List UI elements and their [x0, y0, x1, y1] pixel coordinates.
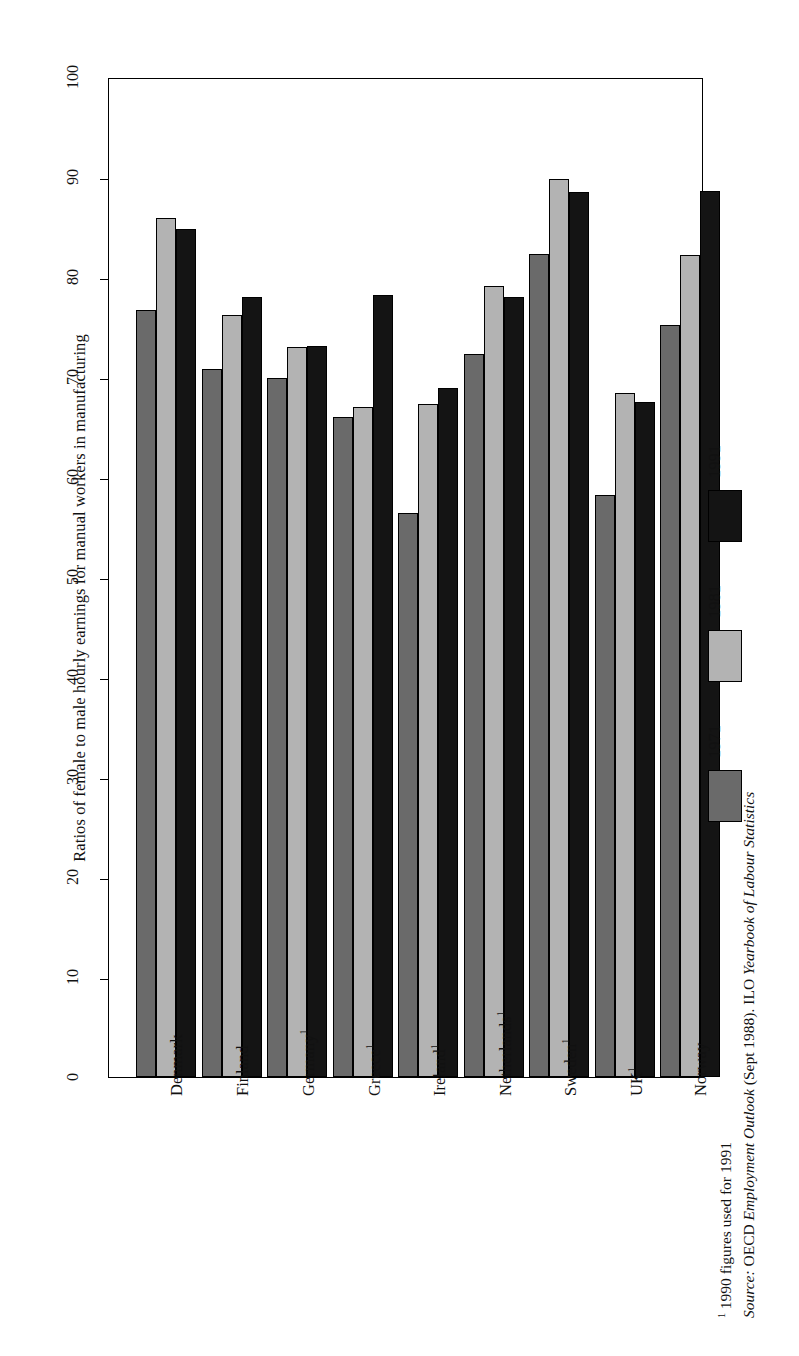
- bar-Denmark-1971: [136, 310, 156, 1077]
- y-tick-label-20: 20: [64, 854, 82, 900]
- bar-Sweden-1991: [569, 192, 589, 1077]
- bar-Netherlands-1991: [504, 297, 524, 1077]
- source-italic-1: Employment Outlook: [740, 1089, 757, 1220]
- y-tick-label-40: 40: [64, 654, 82, 700]
- bar-Finland-1981: [222, 315, 242, 1077]
- x-label-sweden: Sweden1: [560, 1039, 581, 1096]
- legend-label-1971: 1971: [705, 725, 725, 758]
- y-tick-20: [100, 879, 109, 880]
- bar-Denmark-1981: [156, 218, 176, 1077]
- source-italic-2: Yearbook of Labour Statistics: [740, 792, 757, 975]
- y-tick-70: [100, 379, 109, 380]
- y-tick-label-100: 100: [64, 54, 82, 100]
- bar-Norway-1981: [680, 255, 700, 1077]
- x-label-denmark: Denmark: [167, 1035, 187, 1096]
- source-label: Source:: [740, 1270, 757, 1318]
- bar-UK-1971: [595, 495, 615, 1077]
- bar-Denmark-1991: [176, 229, 196, 1077]
- bar-Germany-1981: [287, 347, 307, 1077]
- plot-area: [108, 78, 703, 1078]
- y-tick-10: [100, 979, 109, 980]
- source-plain-1: OECD: [740, 1220, 757, 1270]
- y-tick-80: [100, 279, 109, 280]
- legend-swatch-1971: [708, 770, 742, 822]
- bar-Ireland-1991: [438, 388, 458, 1077]
- x-label-germany: Germany1: [298, 1030, 319, 1096]
- bar-UK-1991: [635, 402, 655, 1077]
- bar-Netherlands-1971: [464, 354, 484, 1077]
- x-label-finland: Finland: [233, 1046, 253, 1096]
- bar-Germany-1971: [267, 378, 287, 1077]
- footnote-text: 1 1990 figures used for 1991: [716, 1142, 735, 1318]
- legend-label-1991: 1991: [705, 445, 725, 478]
- x-label-greece: Greece1: [364, 1044, 385, 1096]
- y-tick-50: [100, 579, 109, 580]
- y-tick-30: [100, 779, 109, 780]
- y-tick-60: [100, 479, 109, 480]
- y-tick-label-0: 0: [64, 1054, 82, 1100]
- bar-Ireland-1981: [418, 404, 438, 1077]
- bar-Norway-1971: [660, 325, 680, 1077]
- bar-Sweden-1971: [529, 254, 549, 1077]
- x-label-netherlands: Netherlands1: [495, 1011, 516, 1096]
- legend: 197119811991: [700, 440, 796, 820]
- y-tick-label-80: 80: [64, 254, 82, 300]
- y-tick-label-70: 70: [64, 354, 82, 400]
- x-label-ireland: Ireland1: [429, 1044, 450, 1096]
- y-tick-40: [100, 679, 109, 680]
- bar-UK-1981: [615, 393, 635, 1077]
- bar-Finland-1971: [202, 369, 222, 1077]
- bar-Ireland-1971: [398, 513, 418, 1077]
- legend-swatch-1991: [708, 490, 742, 542]
- bar-Greece-1981: [353, 407, 373, 1077]
- y-tick-90: [100, 179, 109, 180]
- bar-Finland-1991: [242, 297, 262, 1077]
- x-label-uk: UK1: [626, 1067, 647, 1096]
- bar-Netherlands-1981: [484, 286, 504, 1077]
- x-label-norway: Norway: [691, 1043, 711, 1096]
- y-tick-label-50: 50: [64, 554, 82, 600]
- footnote-marker: 1: [716, 1313, 727, 1318]
- y-tick-label-10: 10: [64, 954, 82, 1000]
- y-tick-label-60: 60: [64, 454, 82, 500]
- legend-swatch-1981: [708, 630, 742, 682]
- bar-Sweden-1981: [549, 179, 569, 1077]
- footnote-body: 1990 figures used for 1991: [717, 1142, 734, 1313]
- bar-Greece-1971: [333, 417, 353, 1077]
- source-text: Source: OECD Employment Outlook (Sept 19…: [740, 792, 758, 1318]
- y-tick-label-30: 30: [64, 754, 82, 800]
- bar-Germany-1991: [307, 346, 327, 1077]
- bar-Greece-1991: [373, 295, 393, 1077]
- chart-figure: Ratios of female to male hourly earnings…: [0, 0, 799, 1356]
- source-plain-2: (Sept 1988). ILO: [740, 975, 757, 1089]
- y-tick-label-90: 90: [64, 154, 82, 200]
- legend-label-1981: 1981: [705, 585, 725, 618]
